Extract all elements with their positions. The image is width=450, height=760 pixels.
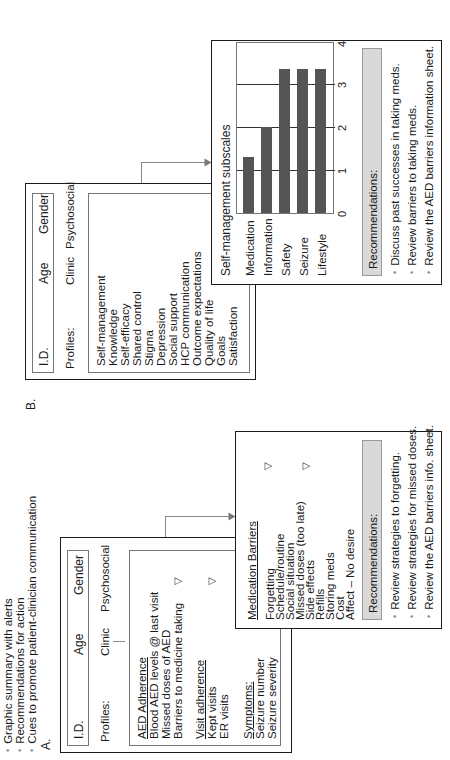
age-label: Age (37, 263, 51, 284)
recommendation-item: Review the AED barriers information shee… (423, 46, 435, 274)
panel-a-connector (165, 516, 229, 517)
psychosocial-item[interactable]: Shared control (131, 291, 144, 366)
symptom-item[interactable]: Seizure number (254, 658, 267, 739)
barrier-item[interactable]: Affect – No desire (344, 529, 357, 620)
bar-medication (243, 157, 254, 213)
panel-a-label: A. (40, 739, 53, 750)
category-label: Lifestyle (316, 234, 328, 276)
psychosocial-item[interactable]: HCP communication (179, 261, 192, 366)
axis-tick: 2 (336, 125, 348, 131)
gender-label: Gender (72, 555, 86, 595)
aed-item[interactable]: Blood AED levels @ last visit (148, 592, 161, 739)
panel-b-header-row: I.D. Age Gender (32, 193, 54, 373)
panel-a-connector (165, 517, 166, 537)
profile-tab-psychosocial[interactable]: Psychosocial (99, 545, 112, 612)
psychosocial-item[interactable]: Social support (167, 293, 180, 366)
recommendation-item: Discuss past successes in taking meds. (389, 63, 401, 274)
aed-item[interactable]: Missed doses of AED (160, 630, 173, 739)
medication-barriers-title: Medication Barriers (246, 521, 259, 620)
aed-item[interactable]: Barriers to medicine taking (172, 603, 185, 739)
intro-bullet: Cues to promote patient-clinician commun… (26, 496, 38, 752)
panel-b-label: B. (25, 399, 38, 410)
psychosocial-item[interactable]: Depression (155, 308, 168, 366)
psychosocial-item[interactable]: Quality of life (203, 300, 216, 366)
subscale-bar-chart: Medication Information Safety Seizure Li… (236, 46, 346, 276)
alert-triangle-icon: ▽ (262, 462, 273, 470)
intro-bullet: Recommendations for action (14, 496, 26, 752)
psychosocial-item[interactable]: Goals (215, 336, 228, 366)
category-label: Seizure (298, 237, 310, 276)
category-label: Information (262, 218, 274, 276)
psychosocial-item[interactable]: Knowledge (107, 309, 120, 366)
id-label: I.D. (72, 720, 86, 739)
profiles-label: Profiles: (64, 327, 77, 369)
alert-triangle-icon: ▽ (300, 462, 311, 470)
medication-barriers-panel: Medication Barriers Forgetting ▽ Schedul… (235, 431, 442, 629)
panel-b-connector (141, 163, 142, 183)
panel-b-connector (141, 162, 205, 163)
chart-title: Self-management subscales (220, 125, 233, 276)
symptoms-title: Symptoms: (242, 681, 255, 739)
alert-triangle-icon: ▽ (206, 577, 217, 585)
aed-adherence-title: AED Adherence (136, 657, 149, 739)
psychosocial-item[interactable]: Self-management (95, 275, 108, 366)
bar-safety (279, 69, 290, 213)
recommendation-item: Review barriers to taking meds. (406, 105, 418, 274)
bar-seizure (297, 69, 308, 213)
panel-a-header-row: I.D. Age Gender (67, 550, 89, 746)
profile-tab-clinic[interactable]: Clinic (99, 628, 112, 656)
visit-adherence-title: Visit adherence (194, 660, 207, 739)
psychosocial-item[interactable]: Stigma (143, 330, 156, 366)
figure-canvas: Graphic summary with alerts Recommendati… (0, 0, 450, 760)
self-management-panel: Self-management subscales Medication Inf… (211, 40, 442, 285)
symptom-item[interactable]: Seizure severity (266, 657, 279, 739)
bar-lifestyle (315, 69, 326, 213)
gender-label: Gender (37, 194, 51, 234)
axis-tick: 1 (336, 168, 348, 174)
axis-tick: 3 (336, 82, 348, 88)
profile-tab-psychosocial[interactable]: Psychosocial (64, 182, 77, 249)
alert-triangle-icon: ▽ (172, 577, 183, 585)
recommendation-item: Review strategies to forgetting. (389, 452, 401, 618)
psychosocial-item[interactable]: Outcome expectations (191, 252, 204, 366)
recommendations-header: Recommendations: (362, 440, 382, 620)
psychosocial-item[interactable]: Satisfaction (227, 307, 240, 366)
plot-area (236, 42, 334, 214)
bar-information (261, 127, 272, 213)
recommendation-item: Review the AED barriers info. sheet. (423, 425, 435, 618)
intro-bullet-list: Graphic summary with alerts Recommendati… (2, 496, 38, 752)
age-label: Age (72, 634, 86, 655)
profiles-label: Profiles: (99, 700, 112, 742)
visit-item[interactable]: ER visits (218, 694, 231, 739)
recommendation-item: Review strategies for missed doses. (406, 426, 418, 618)
category-label: Safety (280, 243, 292, 276)
intro-bullet: Graphic summary with alerts (2, 496, 14, 752)
axis-tick: 0 (336, 211, 348, 217)
category-label: Medication (244, 220, 256, 276)
clinic-connector-line (113, 641, 125, 642)
recommendations-header: Recommendations: (362, 48, 382, 276)
psychosocial-item[interactable]: Self-efficacy (119, 304, 132, 366)
profile-tab-clinic[interactable]: Clinic (64, 257, 77, 285)
id-label: I.D. (37, 347, 51, 366)
visit-item[interactable]: Kept visits (206, 687, 219, 739)
axis-tick: 4 (336, 41, 348, 47)
